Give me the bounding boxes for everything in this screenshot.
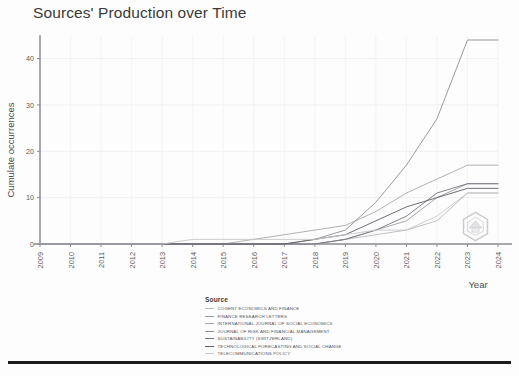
line-chart: 010203040 200920102011201220132014201520… [0, 0, 519, 300]
x-tick-label: 2021 [402, 252, 411, 268]
bottom-divider [8, 361, 511, 364]
legend-color-swatch [205, 331, 214, 332]
legend-item[interactable]: TELECOMMUNICATIONS POLICY [205, 350, 405, 357]
series-line [40, 193, 498, 244]
x-tick-label: 2022 [433, 252, 442, 268]
legend-color-swatch [205, 323, 214, 324]
series-line [40, 193, 498, 244]
legend-items: COGENT ECONOMICS AND FINANCEFINANCE RESE… [205, 306, 405, 358]
legend-item-label: TECHNOLOGICAL FORECASTING AND SOCIAL CHA… [218, 344, 342, 349]
legend-color-swatch [205, 353, 214, 354]
x-tick-label: 2010 [67, 252, 76, 268]
legend-item[interactable]: TECHNOLOGICAL FORECASTING AND SOCIAL CHA… [205, 343, 405, 350]
x-tick-label: 2013 [158, 252, 167, 268]
legend-item[interactable]: INTERNATIONAL JOURNAL OF SOCIAL ECONOMIC… [205, 320, 405, 327]
y-tick-label: 30 [26, 101, 34, 110]
x-tick-label: 2023 [463, 252, 472, 268]
legend-item-label: COGENT ECONOMICS AND FINANCE [218, 306, 300, 311]
legend-item[interactable]: COGENT ECONOMICS AND FINANCE [205, 306, 405, 313]
data-lines [40, 40, 498, 244]
y-tick-label: 0 [30, 240, 34, 249]
x-tick-label: 2011 [97, 252, 106, 268]
legend-item-label: INTERNATIONAL JOURNAL OF SOCIAL ECONOMIC… [218, 321, 333, 326]
gridlines [40, 36, 498, 244]
series-line [40, 165, 498, 244]
y-axis-ticks: 010203040 [26, 54, 40, 248]
x-tick-label: 2024 [494, 252, 503, 268]
legend-item[interactable]: JOURNAL OF RISK AND FINANCIAL MANAGEMENT [205, 328, 405, 335]
x-tick-label: 2016 [250, 252, 259, 268]
legend-item[interactable]: FINANCE RESEARCH LETTERS [205, 313, 405, 320]
y-tick-label: 20 [26, 147, 34, 156]
x-tick-label: 2019 [341, 252, 350, 268]
y-axis-label: Cumulate occurrences [5, 102, 16, 197]
x-tick-label: 2009 [36, 252, 45, 268]
x-tick-label: 2020 [372, 252, 381, 268]
series-line [40, 188, 498, 244]
y-tick-label: 10 [26, 193, 34, 202]
legend-color-swatch [205, 338, 214, 339]
legend: Source COGENT ECONOMICS AND FINANCEFINAN… [205, 296, 405, 358]
legend-item-label: FINANCE RESEARCH LETTERS [218, 314, 287, 319]
legend-title: Source [205, 296, 405, 303]
x-axis-ticks: 2009201020112012201320142015201620172018… [36, 244, 503, 268]
legend-color-swatch [205, 346, 214, 347]
chart-page: Sources' Production over Time 010203040 … [0, 0, 519, 376]
hexagon-logo-watermark [461, 211, 490, 242]
x-tick-label: 2015 [219, 252, 228, 268]
x-tick-label: 2014 [189, 252, 198, 268]
x-tick-label: 2012 [128, 252, 137, 268]
legend-item-label: TELECOMMUNICATIONS POLICY [218, 351, 291, 356]
legend-item-label: SUSTAINABILITY (SWITZERLAND) [218, 336, 293, 341]
x-tick-label: 2017 [280, 252, 289, 268]
y-tick-label: 40 [26, 54, 34, 63]
legend-item[interactable]: SUSTAINABILITY (SWITZERLAND) [205, 335, 405, 342]
axis-lines [34, 35, 512, 244]
x-tick-label: 2018 [311, 252, 320, 268]
series-line [40, 184, 498, 244]
series-line [40, 40, 498, 244]
x-axis-label: Year [468, 279, 487, 290]
legend-item-label: JOURNAL OF RISK AND FINANCIAL MANAGEMENT [218, 329, 330, 334]
legend-color-swatch [205, 308, 214, 309]
legend-color-swatch [205, 316, 214, 317]
series-line [40, 184, 498, 244]
